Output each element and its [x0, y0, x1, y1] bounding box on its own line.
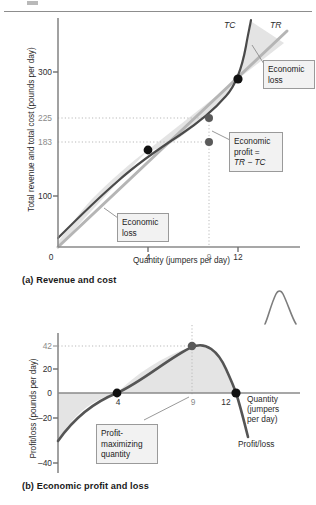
panel-b-ytick-20: 20 — [26, 364, 52, 374]
shade-profit-b — [117, 346, 236, 393]
panel-b-ytick-42: 42 — [26, 341, 52, 351]
panel-b-ytick-minus20: –20 — [22, 413, 52, 423]
panel-a-ytick-225: 225 — [26, 113, 52, 123]
leader-profit — [212, 131, 230, 140]
callout-economic-loss-lower-line2: loss — [122, 228, 164, 239]
leader-loss-lower — [104, 208, 118, 218]
marker-tc-at-q9 — [205, 138, 213, 146]
tr-curve-label: TR — [270, 20, 281, 30]
leader-pmq — [144, 397, 189, 420]
callout-pmq-line3: quantity — [101, 449, 153, 460]
callout-economic-loss-upper-line1: Economic — [268, 64, 310, 75]
marker-max-profit — [188, 342, 196, 350]
callout-profit-maximizing-quantity: Profit- maximizing quantity — [96, 424, 158, 464]
marker-breakeven-low — [144, 146, 153, 155]
callout-pmq-line2: maximizing — [101, 439, 153, 450]
panel-b-x-axis-title-line2: (jumpers — [247, 404, 279, 414]
marker-tr-at-q9 — [205, 114, 213, 122]
callout-economic-profit-line2: profit = — [234, 147, 278, 158]
panel-a-xtick-0: 0 — [44, 252, 58, 262]
profit-loss-curve-label: Profit/loss — [238, 439, 274, 449]
tc-curve-label: TC — [224, 20, 235, 30]
panel-b-x-axis-title-line3: per day) — [247, 414, 279, 424]
callout-pmq-line1: Profit- — [101, 428, 153, 439]
panel-b-xtick-4: 4 — [111, 397, 125, 407]
decorative-curve-glyph — [262, 288, 302, 328]
panel-b-x-axis-title-line1: Quantity — [247, 394, 279, 404]
panel-a-caption: (a) Revenue and cost — [22, 275, 116, 285]
panel-b-ytick-minus40: –40 — [22, 458, 52, 468]
callout-economic-profit: Economic profit = TR − TC — [229, 132, 283, 172]
callout-economic-profit-line3: TR − TC — [234, 157, 278, 168]
panel-a-xtick-12: 12 — [231, 252, 245, 262]
callout-economic-loss-upper-line2: loss — [268, 75, 310, 86]
panel-b-x-axis-title: Quantity (jumpers per day) — [247, 394, 279, 424]
panel-a-ytick-100: 100 — [26, 191, 52, 201]
panel-b-caption: (b) Economic profit and loss — [22, 481, 149, 491]
callout-economic-profit-line1: Economic — [234, 136, 278, 147]
marker-breakeven-high — [233, 74, 242, 83]
economics-figure: Total revenue and total cost (pounds per… — [0, 0, 316, 505]
panel-a-x-axis-title: Quantity (jumpers per day) — [133, 256, 230, 265]
callout-economic-loss-lower: Economic loss — [117, 213, 169, 242]
callout-economic-loss-upper: Economic loss — [263, 60, 315, 89]
panel-a-ytick-183: 183 — [26, 137, 52, 147]
panel-b-xtick-12: 12 — [218, 397, 234, 407]
panel-b-xtick-9: 9 — [186, 397, 200, 407]
callout-economic-loss-lower-line1: Economic — [122, 217, 164, 228]
panel-a-ytick-300: 300 — [26, 67, 52, 77]
panel-b-ytick-0: 0 — [26, 388, 52, 398]
